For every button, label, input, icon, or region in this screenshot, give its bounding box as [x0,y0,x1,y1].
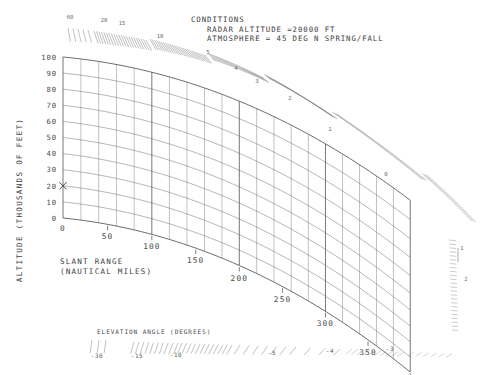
y-tick-label-100: 100 [41,53,57,62]
elevation-fan-bottom-d [178,343,232,355]
x-tick-label-50: 50 [102,232,114,241]
y-tick-label-0: 0 [52,214,57,223]
x-tick-label-300: 300 [317,319,334,328]
elevation-label-bottom--15: -15 [131,352,144,359]
elevation-label-right-1: 1 [460,245,463,251]
grid-line-altitude-70 [63,105,410,257]
x-tick-label-0: 0 [60,224,66,233]
elevation-fan-bottom-a [90,340,106,353]
grid-line-altitude-50 [63,138,410,294]
elevation-label-bottom--5: -5 [268,349,276,356]
x-tick-label-350: 350 [359,348,376,357]
elevation-fan-top-a [68,28,92,43]
elevation-label-top-20: 20 [101,17,108,23]
y-tick-label-60: 60 [47,117,57,126]
y-tick-label-70: 70 [47,101,57,110]
y-tick-label-20: 20 [47,182,57,191]
elevation-label-0: 0 [384,171,387,177]
elevation-label-1: 1 [328,126,331,132]
x-tick-label-150: 150 [187,256,204,265]
elevation-label-right-2: 2 [464,276,467,282]
y-tick-label-50: 50 [47,133,57,142]
elevation-fan-top-b [94,31,152,51]
elevation-label-bottom--30: -30 [91,352,104,359]
y-tick-label-30: 30 [47,165,57,174]
y-tick-label-10: 10 [47,198,57,207]
grid-line-altitude-0 [63,218,410,372]
y-tick-label-90: 90 [47,69,57,78]
elevation-label-3: 3 [255,78,258,84]
elevation-fan-top-e [264,74,337,119]
chart-canvas: 0102030405060708090100050100150200250300… [0,0,482,375]
elevation-label-2: 2 [288,95,291,101]
x-tick-label-200: 200 [231,274,248,283]
x-tick-label-100: 100 [143,242,160,251]
elevation-fan-top-f [332,112,427,180]
x-tick-label-250: 250 [274,295,291,304]
elevation-label-top-10: 10 [157,33,164,39]
grid-line-altitude-20 [63,186,410,342]
elevation-label-5: 5 [206,49,209,55]
elevation-fan-right [449,240,458,330]
y-tick-label-40: 40 [47,149,57,158]
elevation-fan-top-d [208,53,269,83]
grid-line-altitude-90 [63,73,410,219]
elevation-label-bottom--10: -10 [170,351,183,358]
elevation-label-top-15: 15 [119,20,126,26]
y-tick-label-80: 80 [47,85,57,94]
elevation-label-bottom--4: -4 [326,347,334,354]
elevation-fan-top-c [150,39,212,64]
elevation-fan-bottom-e [234,345,286,355]
radar-nomogram-chart: 0102030405060708090100050100150200250300… [0,0,482,375]
grid-line-altitude-40 [63,154,410,310]
elevation-fan-top-g [422,174,476,221]
elevation-fan-bottom-h [408,352,452,357]
grid-line-altitude-60 [63,121,410,275]
elevation-label-bottom--3: -3 [386,345,394,352]
elevation-label-top-60: 60 [67,14,74,20]
